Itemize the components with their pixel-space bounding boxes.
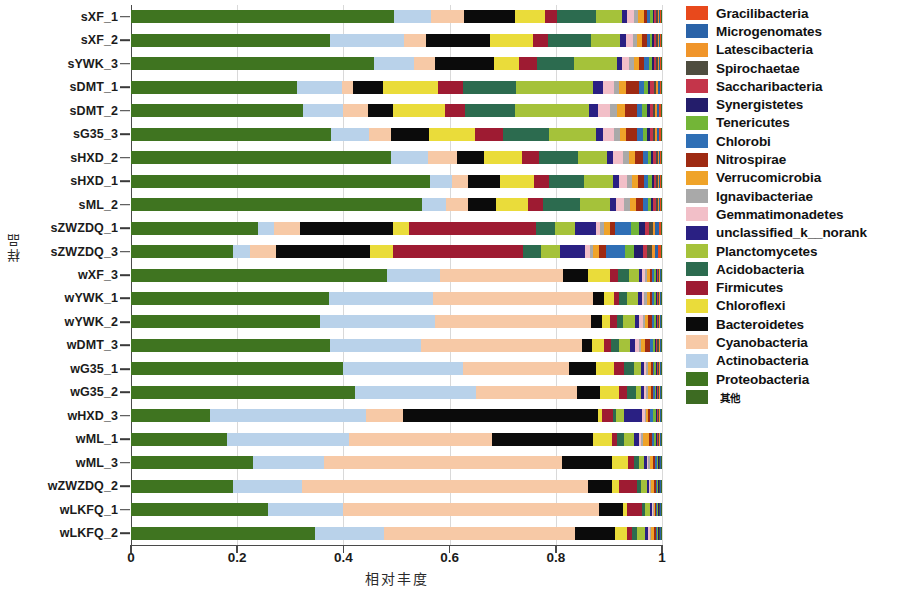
plot-area <box>131 5 662 545</box>
y-axis-tick <box>120 392 130 394</box>
bar-row <box>131 386 662 399</box>
bar-segment <box>276 245 370 258</box>
bar-row <box>131 10 662 23</box>
legend-item[interactable]: Chloroflexi <box>686 297 899 315</box>
bar-segment <box>615 527 627 540</box>
legend-item[interactable]: 其他 <box>686 388 899 406</box>
bar-segment <box>403 409 598 422</box>
bar-segment <box>320 315 435 328</box>
bar-segment <box>409 222 536 235</box>
bar-segment <box>343 104 368 117</box>
bar-segment <box>578 151 607 164</box>
legend-item[interactable]: unclassified_k__norank <box>686 224 899 242</box>
bar-segment <box>131 456 253 469</box>
legend-item[interactable]: Gracilibacteria <box>686 4 899 22</box>
legend-item[interactable]: Firmicutes <box>686 278 899 296</box>
bar-segment <box>627 386 636 399</box>
legend-item[interactable]: Actinobacteria <box>686 352 899 370</box>
legend-item[interactable]: Proteobacteria <box>686 370 899 388</box>
bar-segment <box>131 151 391 164</box>
y-axis-tick <box>120 227 130 229</box>
bar-segment <box>627 10 634 23</box>
bar-segment <box>619 175 627 188</box>
legend-item[interactable]: Microgenomates <box>686 22 899 40</box>
y-axis-tick <box>120 274 130 276</box>
bar-segment <box>602 315 610 328</box>
legend-item[interactable]: Gemmatimonadetes <box>686 205 899 223</box>
x-axis-tick-label: 0.2 <box>228 550 247 565</box>
legend-item[interactable]: Tenericutes <box>686 114 899 132</box>
legend-item[interactable]: Synergistetes <box>686 95 899 113</box>
bar-segment <box>131 104 303 117</box>
bar-row <box>131 222 662 235</box>
legend-item[interactable]: Cyanobacteria <box>686 333 899 351</box>
bar-segment <box>602 409 613 422</box>
bar-segment <box>619 292 627 305</box>
legend-swatch-icon <box>686 262 708 276</box>
bar-segment <box>617 104 625 117</box>
legend-label: Planctomycetes <box>716 244 817 259</box>
bar-segment <box>431 10 464 23</box>
y-axis-tick <box>120 532 130 534</box>
legend-swatch-icon <box>686 299 708 313</box>
bar-row <box>131 456 662 469</box>
y-axis-tick-label: sHXD_1 <box>70 174 118 188</box>
legend-swatch-icon <box>686 372 708 386</box>
y-axis-tick <box>120 462 130 464</box>
bar-segment <box>589 104 598 117</box>
bar-segment <box>599 245 606 258</box>
bar-segment <box>661 10 662 23</box>
bar-segment <box>515 104 590 117</box>
y-axis-tick <box>120 63 130 65</box>
y-axis-tick <box>120 204 130 206</box>
bar-segment <box>349 433 493 446</box>
legend-item[interactable]: Acidobacteria <box>686 260 899 278</box>
x-axis-tick-label: 0.4 <box>334 550 353 565</box>
y-axis-tick-label: sXF_2 <box>81 33 118 47</box>
legend-item[interactable]: Saccharibacteria <box>686 77 899 95</box>
bar-segment <box>661 386 662 399</box>
legend-item[interactable]: Verrucomicrobia <box>686 169 899 187</box>
bar-segment <box>591 34 620 47</box>
legend-item[interactable]: Nitrospirae <box>686 150 899 168</box>
bar-segment <box>596 362 615 375</box>
legend-label: Chlorobi <box>716 134 771 149</box>
bar-segment <box>614 362 624 375</box>
legend-item[interactable]: Planctomycetes <box>686 242 899 260</box>
bar-segment <box>468 198 496 211</box>
bar-segment <box>629 269 639 282</box>
bar-segment <box>468 175 500 188</box>
legend-item[interactable]: Spirochaetae <box>686 59 899 77</box>
bar-segment <box>475 128 502 141</box>
bar-segment <box>233 480 302 493</box>
bar-segment <box>661 34 662 47</box>
bar-segment <box>516 81 593 94</box>
y-axis-tick <box>120 157 130 159</box>
bar-segment <box>393 222 409 235</box>
bar-segment <box>391 128 429 141</box>
bar-segment <box>562 456 612 469</box>
bar-segment <box>131 480 233 493</box>
bar-segment <box>433 292 592 305</box>
bar-row <box>131 527 662 540</box>
bar-segment <box>210 409 366 422</box>
bar-segment <box>661 104 662 117</box>
legend-item[interactable]: Chlorobi <box>686 132 899 150</box>
legend-item[interactable]: Latescibacteria <box>686 41 899 59</box>
bar-segment <box>131 175 430 188</box>
bar-segment <box>661 362 662 375</box>
legend-item[interactable]: Ignavibacteriae <box>686 187 899 205</box>
bar-segment <box>329 292 433 305</box>
bar-segment <box>387 269 440 282</box>
legend-item[interactable]: Bacteroidetes <box>686 315 899 333</box>
y-axis-tick <box>120 486 130 488</box>
bar-segment <box>613 151 623 164</box>
y-axis-tick-label: wG35_2 <box>70 385 118 399</box>
bar-row <box>131 104 662 117</box>
bar-segment <box>661 175 662 188</box>
bar-segment <box>131 433 227 446</box>
bar-segment <box>536 222 555 235</box>
bar-segment <box>615 222 631 235</box>
legend-swatch-icon <box>686 317 708 331</box>
y-axis-tick-label: wG35_1 <box>70 362 118 376</box>
